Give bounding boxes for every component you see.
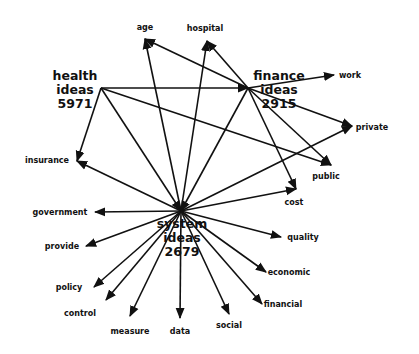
leaf-node-measure: measure	[111, 327, 151, 336]
leaf-node-policy: policy	[56, 283, 83, 292]
edge-system-to-cost	[181, 189, 296, 211]
hub-label-line: ideas	[260, 82, 298, 97]
leaf-node-work: work	[339, 71, 362, 80]
hub-node-finance: financeideas2915	[253, 68, 304, 111]
leaf-node-financial: financial	[264, 300, 303, 309]
leaf-node-cost: cost	[285, 198, 304, 207]
hub-label-line: health	[53, 68, 98, 83]
leaf-node-insurance: insurance	[25, 156, 70, 165]
hub-label-line: 2915	[262, 96, 297, 111]
hub-label-line: finance	[253, 68, 304, 83]
hub-label-line: 2679	[165, 244, 200, 259]
leaf-node-quality: quality	[287, 233, 319, 242]
leaf-node-social: social	[216, 321, 242, 330]
edge-system-to-age	[145, 39, 181, 211]
leaf-node-provide: provide	[45, 242, 80, 251]
leaf-node-age: age	[137, 23, 154, 32]
leaf-node-private: private	[356, 123, 389, 132]
hub-label-line: ideas	[163, 230, 201, 245]
leaf-node-government: government	[33, 208, 88, 217]
concept-network-diagram: healthideas5971financeideas2915systemide…	[0, 0, 419, 354]
edge-system-to-private	[181, 126, 352, 211]
leaf-node-data: data	[170, 327, 190, 336]
leaf-node-public: public	[312, 172, 340, 181]
edge-finance-to-hospital	[207, 41, 248, 88]
edge-layer	[77, 39, 352, 318]
edge-finance-to-age	[145, 39, 248, 88]
leaf-node-control: control	[64, 309, 96, 318]
hub-label-line: ideas	[56, 82, 94, 97]
edge-system-to-government	[95, 211, 181, 212]
hub-node-health: healthideas5971	[53, 68, 98, 111]
hub-label-line: 5971	[58, 96, 93, 111]
leaf-node-economic: economic	[268, 268, 311, 277]
hub-label-line: system	[157, 216, 208, 231]
hub-layer: healthideas5971financeideas2915systemide…	[53, 68, 305, 259]
leaf-node-hospital: hospital	[187, 24, 224, 33]
